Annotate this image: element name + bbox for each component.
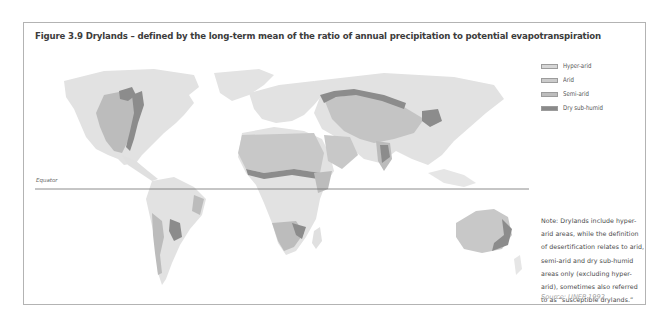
note-line: arid areas, while the definition xyxy=(541,227,643,240)
legend-item-arid: Arid xyxy=(541,73,612,87)
legend-label: Hyper-arid xyxy=(563,62,591,70)
map-legend: Hyper-arid Arid Semi-arid Dry sub-humid xyxy=(541,59,612,115)
figure-frame: Figure 3.9 Drylands – defined by the lon… xyxy=(23,22,646,305)
legend-label: Semi-arid xyxy=(563,90,589,98)
world-drylands-map xyxy=(24,23,534,306)
note-line: Note: Drylands include hyper- xyxy=(541,214,643,227)
note-line: arid), sometimes also referred xyxy=(541,280,643,293)
equator-label: Equator xyxy=(36,177,58,183)
arid-swatch xyxy=(541,78,558,83)
note-line: areas only (excluding hyper- xyxy=(541,267,643,280)
legend-item-hyper-arid: Hyper-arid xyxy=(541,59,612,73)
note-line: semi-arid and dry sub-humid xyxy=(541,254,643,267)
central-america xyxy=(122,155,158,181)
dry-sub-humid-swatch xyxy=(541,106,558,111)
source-citation: Source: UNEP 1992 xyxy=(541,293,605,301)
legend-item-dry-sub-humid: Dry sub-humid xyxy=(541,101,612,115)
legend-item-semi-arid: Semi-arid xyxy=(541,87,612,101)
sahara-drylands xyxy=(238,133,324,173)
southeast-asia-islands xyxy=(428,169,476,187)
new-zealand xyxy=(514,255,522,275)
hyper-arid-swatch xyxy=(541,64,558,69)
madagascar xyxy=(312,227,322,249)
semi-arid-swatch xyxy=(541,92,558,97)
note-line: of desertification relates to arid, xyxy=(541,240,643,253)
legend-label: Dry sub-humid xyxy=(563,104,603,112)
legend-label: Arid xyxy=(563,76,574,84)
